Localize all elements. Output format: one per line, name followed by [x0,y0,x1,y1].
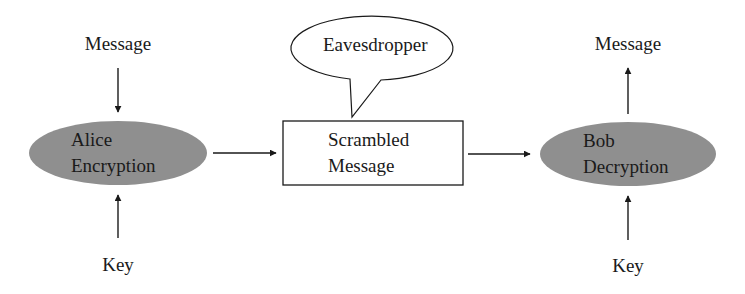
scrambled-line2: Message [328,153,409,179]
bob-output-message-label: Message [595,33,661,55]
alice-encryption-text: Alice Encryption [71,127,155,179]
alice-input-key-label: Key [102,254,134,276]
eavesdropper-label: Eavesdropper [323,34,427,56]
eavesdropper-bubble [291,16,453,117]
bob-line1: Bob [583,128,668,154]
bob-input-key-label: Key [612,255,644,277]
alice-line1: Alice [71,127,155,153]
encryption-diagram: Message Key Alice Encryption Scrambled M… [0,0,745,294]
alice-line2: Encryption [71,153,155,179]
alice-input-message-label: Message [85,33,151,55]
scrambled-line1: Scrambled [328,127,409,153]
bob-line2: Decryption [583,154,668,180]
scrambled-message-text: Scrambled Message [328,127,409,179]
bob-decryption-text: Bob Decryption [583,128,668,180]
